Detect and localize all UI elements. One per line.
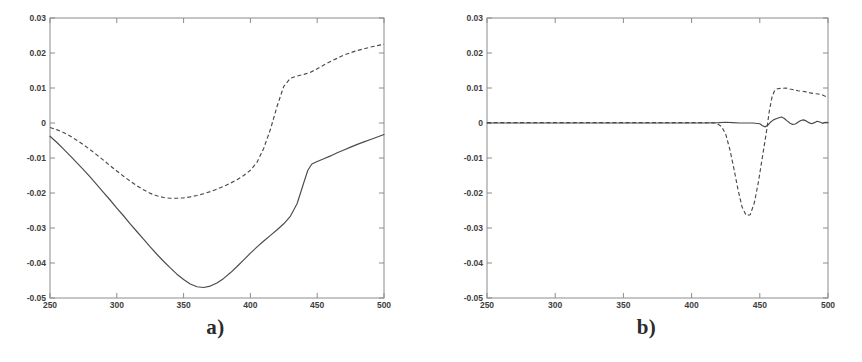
x-tick-label: 400 [243, 300, 257, 310]
x-tick-label: 450 [310, 300, 324, 310]
y-tick-label: 0.03 [29, 13, 46, 23]
y-tick-label: -0.01 [464, 153, 484, 163]
y-tick-label: 0 [478, 118, 483, 128]
x-tick-label: 350 [177, 300, 191, 310]
x-tick-label: 350 [616, 300, 630, 310]
panel-b-caption: b) [431, 315, 862, 340]
y-tick-label: -0.04 [27, 258, 47, 268]
x-tick-label: 300 [110, 300, 124, 310]
y-tick-label: -0.04 [464, 258, 484, 268]
axis-frame [487, 18, 828, 298]
y-tick-label: 0 [41, 118, 46, 128]
y-tick-label: -0.02 [464, 188, 484, 198]
y-tick-label: 0.03 [466, 13, 483, 23]
figure-container: -0.05-0.04-0.03-0.02-0.0100.010.020.0325… [0, 0, 862, 362]
y-tick-label: -0.02 [27, 188, 47, 198]
series-solid-curve [487, 117, 828, 127]
x-tick-label: 450 [753, 300, 767, 310]
panel-b: -0.05-0.04-0.03-0.02-0.0100.010.020.0325… [431, 0, 862, 362]
panel-a: -0.05-0.04-0.03-0.02-0.0100.010.020.0325… [0, 0, 431, 362]
series-solid-curve [50, 135, 384, 288]
series-dashed-curve [487, 88, 828, 215]
panel-a-caption: a) [0, 315, 431, 340]
x-tick-label: 300 [548, 300, 562, 310]
x-tick-label: 500 [377, 300, 391, 310]
series-dashed-curve [50, 44, 384, 198]
plot-b: -0.05-0.04-0.03-0.02-0.0100.010.020.0325… [431, 0, 862, 362]
x-tick-label: 400 [685, 300, 699, 310]
y-tick-label: 0.02 [29, 48, 46, 58]
y-tick-label: 0.01 [466, 83, 483, 93]
x-tick-label: 250 [43, 300, 57, 310]
x-tick-label: 250 [480, 300, 494, 310]
plot-a: -0.05-0.04-0.03-0.02-0.0100.010.020.0325… [0, 0, 431, 362]
y-tick-label: -0.01 [27, 153, 47, 163]
y-tick-label: -0.03 [464, 223, 484, 233]
y-tick-label: 0.02 [466, 48, 483, 58]
x-tick-label: 500 [821, 300, 835, 310]
y-tick-label: 0.01 [29, 83, 46, 93]
y-tick-label: -0.03 [27, 223, 47, 233]
